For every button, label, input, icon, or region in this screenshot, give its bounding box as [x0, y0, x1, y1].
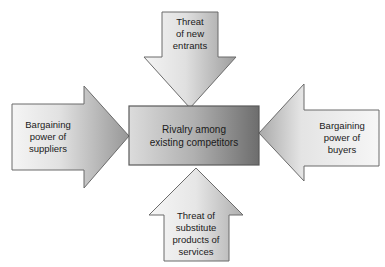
forces-svg-canvas: [0, 0, 385, 267]
force-arrow-threat-of-substitute-products-or-services: [149, 168, 243, 261]
force-arrow-bargaining-power-of-buyers: [259, 84, 379, 181]
force-arrow-threat-of-new-entrants: [144, 12, 236, 108]
force-arrow-bargaining-power-of-suppliers: [12, 86, 129, 188]
center-box-rivalry: [129, 106, 259, 165]
porters-five-forces-diagram: Threat of new entrants Bargaining power …: [0, 0, 385, 267]
